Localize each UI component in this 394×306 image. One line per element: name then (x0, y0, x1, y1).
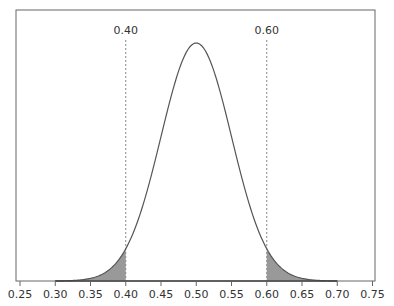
x-tick-label: 0.70 (325, 288, 350, 301)
x-tick-label: 0.60 (255, 288, 280, 301)
x-tick-label: 0.50 (184, 288, 209, 301)
x-tick-label: 0.65 (290, 288, 315, 301)
density-curve (55, 43, 337, 281)
x-tick-label: 0.55 (219, 288, 244, 301)
cutoff-label: 0.40 (114, 24, 139, 37)
plot-frame (16, 10, 375, 281)
x-tick-label: 0.25 (8, 288, 33, 301)
x-tick-label: 0.40 (114, 288, 139, 301)
x-tick-label: 0.30 (43, 288, 68, 301)
cutoff-label: 0.60 (255, 24, 280, 37)
cutoff-lines: 0.400.60 (114, 24, 280, 281)
x-tick-label: 0.35 (78, 288, 103, 301)
x-axis: 0.250.300.350.400.450.500.550.600.650.70… (8, 281, 385, 301)
normal-distribution-chart: 0.400.60 0.250.300.350.400.450.500.550.6… (0, 0, 394, 306)
x-tick-label: 0.75 (360, 288, 385, 301)
x-tick-label: 0.45 (149, 288, 174, 301)
